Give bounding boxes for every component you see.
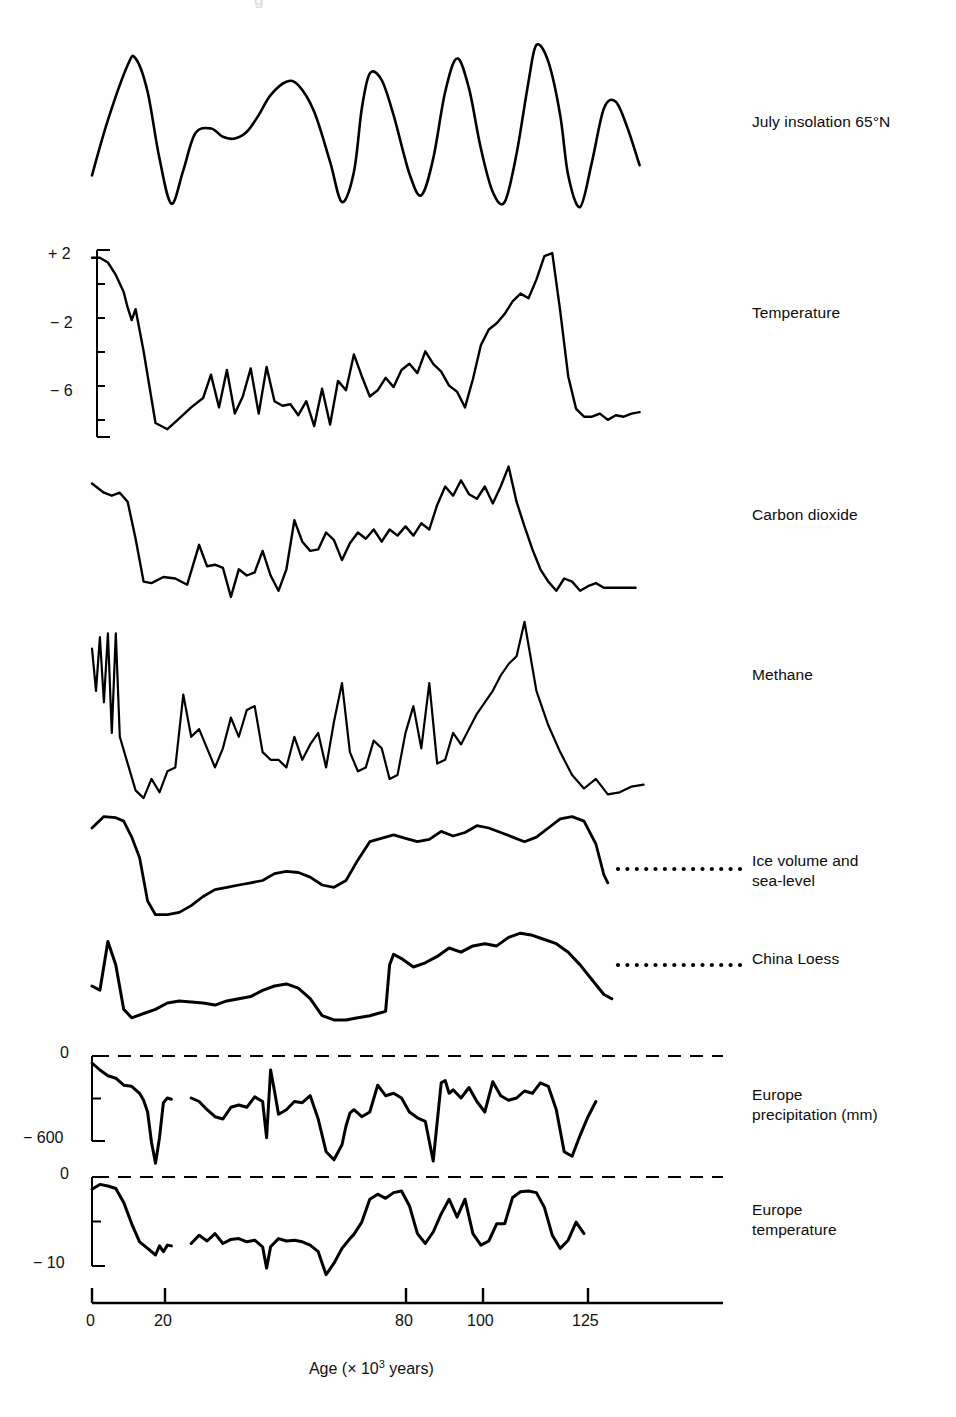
leader-dot-ice-volume-sea-level bbox=[672, 867, 676, 871]
leader-dot-ice-volume-sea-level bbox=[635, 867, 639, 871]
leader-dot-china-loess bbox=[719, 963, 723, 967]
leader-dot-ice-volume-sea-level bbox=[653, 867, 657, 871]
series-label-china-loess: China Loess bbox=[752, 949, 839, 969]
leader-dot-china-loess bbox=[710, 963, 714, 967]
temperature-ytick-minus2: − 2 bbox=[50, 314, 73, 332]
series-label-europe-precipitation: Europeprecipitation (mm) bbox=[752, 1085, 878, 1125]
leader-dot-ice-volume-sea-level bbox=[682, 867, 686, 871]
leader-dot-ice-volume-sea-level bbox=[625, 867, 629, 871]
leader-dot-china-loess bbox=[625, 963, 629, 967]
curve-europe-temperature-seg2 bbox=[191, 1191, 584, 1275]
series-label-methane: Methane bbox=[752, 665, 813, 685]
xaxis-title-suffix: years) bbox=[385, 1360, 434, 1377]
curve-ice-volume-and-sea-level bbox=[92, 817, 608, 915]
leader-dot-china-loess bbox=[644, 963, 648, 967]
leader-dot-china-loess bbox=[672, 963, 676, 967]
temperature-ytick-plus2: + 2 bbox=[48, 245, 71, 263]
leader-dot-ice-volume-sea-level bbox=[644, 867, 648, 871]
xtick-label-125: 125 bbox=[572, 1312, 599, 1330]
leader-dot-ice-volume-sea-level bbox=[616, 867, 620, 871]
series-label-july-insolation: July insolation 65°N bbox=[752, 112, 890, 132]
leader-dot-china-loess bbox=[653, 963, 657, 967]
figure-root: g July insolation 65°N Temperature Carbo… bbox=[0, 0, 956, 1417]
precipitation-ytick-minus600: − 600 bbox=[23, 1129, 63, 1147]
leader-dot-china-loess bbox=[616, 963, 620, 967]
leader-dot-ice-volume-sea-level bbox=[738, 867, 742, 871]
xtick-label-20: 20 bbox=[154, 1312, 172, 1330]
series-label-carbon-dioxide: Carbon dioxide bbox=[752, 505, 858, 525]
leader-dot-ice-volume-sea-level bbox=[710, 867, 714, 871]
curve-europe-temperature-seg1 bbox=[92, 1184, 171, 1255]
europe-temperature-ytick-minus10: − 10 bbox=[33, 1254, 65, 1272]
leader-dot-ice-volume-sea-level bbox=[729, 867, 733, 871]
series-label-ice-volume-sea-level: Ice volume andsea-level bbox=[752, 851, 859, 891]
xtick-label-0: 0 bbox=[86, 1312, 95, 1330]
curve-temperature bbox=[92, 253, 640, 429]
leader-dot-china-loess bbox=[729, 963, 733, 967]
series-label-europe-temperature: Europetemperature bbox=[752, 1200, 837, 1240]
leader-dot-ice-volume-sea-level bbox=[663, 867, 667, 871]
leader-dot-china-loess bbox=[700, 963, 704, 967]
xtick-label-80: 80 bbox=[395, 1312, 413, 1330]
leader-dot-ice-volume-sea-level bbox=[700, 867, 704, 871]
temperature-ytick-minus6: − 6 bbox=[50, 382, 73, 400]
europe-temperature-ytick-zero: 0 bbox=[60, 1165, 69, 1183]
leader-dot-ice-volume-sea-level bbox=[691, 867, 695, 871]
curve-methane bbox=[92, 622, 644, 798]
xaxis-title: Age (× 103 years) bbox=[292, 1340, 434, 1396]
series-label-temperature: Temperature bbox=[752, 303, 840, 323]
xtick-label-100: 100 bbox=[467, 1312, 494, 1330]
leader-dot-china-loess bbox=[682, 963, 686, 967]
leader-dot-ice-volume-sea-level bbox=[719, 867, 723, 871]
leader-dot-china-loess bbox=[663, 963, 667, 967]
leader-dot-china-loess bbox=[635, 963, 639, 967]
curve-europe-precipitation-mm-seg2 bbox=[191, 1070, 596, 1161]
leader-dot-china-loess bbox=[738, 963, 742, 967]
curve-china-loess bbox=[92, 933, 612, 1020]
curve-carbon-dioxide bbox=[92, 467, 636, 597]
curve-europe-precipitation-mm-seg1 bbox=[92, 1063, 171, 1163]
xaxis-title-prefix: Age (× 10 bbox=[309, 1360, 379, 1377]
precipitation-ytick-zero: 0 bbox=[60, 1044, 69, 1062]
leader-dot-china-loess bbox=[691, 963, 695, 967]
curve-july-insolation-65-n bbox=[92, 44, 640, 207]
